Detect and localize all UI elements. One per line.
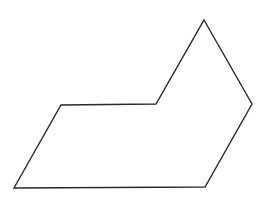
diagram-canvas (0, 0, 266, 203)
background (0, 0, 266, 203)
